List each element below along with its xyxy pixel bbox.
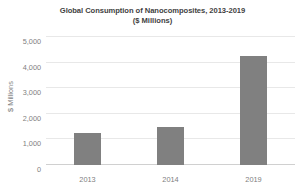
bar-2014[interactable] xyxy=(157,127,184,165)
x-axis-label-2013: 2013 xyxy=(79,175,95,184)
bar-slot xyxy=(212,37,295,165)
x-axis-labels: 201320142019 xyxy=(46,168,295,186)
x-label-slot: 2019 xyxy=(212,168,295,186)
y-axis-ticks: 01,0002,0003,0004,0005,000 xyxy=(0,37,44,165)
x-label-slot: 2013 xyxy=(46,168,129,186)
chart-title: Global Consumption of Nanocomposites, 20… xyxy=(0,6,305,16)
bar-2019[interactable] xyxy=(240,56,267,165)
bar-slot xyxy=(46,37,129,165)
x-axis-label-2019: 2019 xyxy=(245,175,261,184)
plot-area xyxy=(46,37,295,165)
x-axis-label-2014: 2014 xyxy=(162,175,178,184)
bar-series xyxy=(46,37,295,165)
x-label-slot: 2014 xyxy=(129,168,212,186)
chart-title-block: Global Consumption of Nanocomposites, 20… xyxy=(0,6,305,26)
chart-subtitle: ($ Millions) xyxy=(0,16,305,26)
bar-2013[interactable] xyxy=(74,133,101,165)
bar-chart: Global Consumption of Nanocomposites, 20… xyxy=(0,0,305,193)
bar-slot xyxy=(129,37,212,165)
